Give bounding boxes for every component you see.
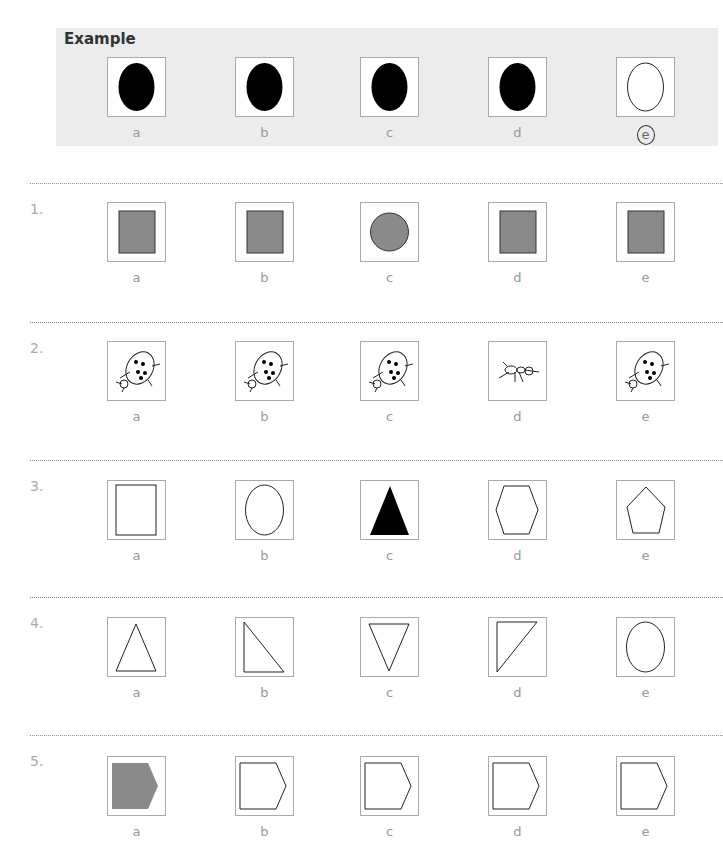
- black-oval-icon: [108, 58, 165, 116]
- q2-option-a-box[interactable]: [107, 341, 166, 401]
- q1-option-e-box[interactable]: [616, 202, 675, 262]
- q1-option-d-box[interactable]: [488, 202, 547, 262]
- arrow-pentagon-outline-icon: [236, 757, 293, 815]
- q5-option-a-label[interactable]: a: [107, 824, 166, 839]
- example-option-e-label[interactable]: e: [616, 125, 675, 145]
- q4-option-d-box[interactable]: [488, 617, 547, 677]
- q4-option-a-label[interactable]: a: [107, 685, 166, 700]
- grey-circle-icon: [361, 203, 418, 261]
- question-number: 3.: [30, 478, 43, 494]
- q4-option-b-label[interactable]: b: [235, 685, 294, 700]
- arrow-pentagon-outline-icon: [617, 757, 674, 815]
- example-option-c-box[interactable]: [360, 57, 419, 117]
- divider: [30, 735, 723, 736]
- q2-option-d-label[interactable]: d: [488, 409, 547, 424]
- q2-option-a-label[interactable]: a: [107, 409, 166, 424]
- rectangle-outline-icon: [108, 481, 165, 539]
- q3-option-c-box[interactable]: [360, 480, 419, 540]
- ladybird-icon: [617, 342, 674, 400]
- example-option-c-label[interactable]: c: [360, 125, 419, 140]
- q1-option-e-label[interactable]: e: [616, 270, 675, 285]
- q1-option-b-label[interactable]: b: [235, 270, 294, 285]
- example-title: Example: [64, 30, 136, 48]
- divider: [30, 322, 723, 323]
- arrow-pentagon-outline-icon: [361, 757, 418, 815]
- black-oval-icon: [361, 58, 418, 116]
- answer-circle: e: [637, 125, 655, 145]
- ladybird-icon: [108, 342, 165, 400]
- example-option-d-box[interactable]: [488, 57, 547, 117]
- divider: [30, 460, 723, 461]
- question-number: 5.: [30, 753, 43, 769]
- q5-option-e-label[interactable]: e: [616, 824, 675, 839]
- oval-outline-icon: [617, 618, 674, 676]
- q5-option-e-box[interactable]: [616, 756, 675, 816]
- q2-option-b-box[interactable]: [235, 341, 294, 401]
- q1-option-b-box[interactable]: [235, 202, 294, 262]
- q4-option-c-box[interactable]: [360, 617, 419, 677]
- example-option-e-box[interactable]: [616, 57, 675, 117]
- q2-option-e-label[interactable]: e: [616, 409, 675, 424]
- q5-option-b-label[interactable]: b: [235, 824, 294, 839]
- q3-option-a-box[interactable]: [107, 480, 166, 540]
- q4-option-e-box[interactable]: [616, 617, 675, 677]
- q3-option-e-box[interactable]: [616, 480, 675, 540]
- example-option-d-label[interactable]: d: [488, 125, 547, 140]
- example-option-a-box[interactable]: [107, 57, 166, 117]
- question-number: 2.: [30, 340, 43, 356]
- q4-option-b-box[interactable]: [235, 617, 294, 677]
- oval-outline-icon: [236, 481, 293, 539]
- q3-option-c-label[interactable]: c: [360, 548, 419, 563]
- grey-arrow-pentagon-icon: [108, 757, 165, 815]
- q5-option-d-box[interactable]: [488, 756, 547, 816]
- question-number: 1.: [30, 201, 43, 217]
- q1-option-c-box[interactable]: [360, 202, 419, 262]
- q1-option-a-box[interactable]: [107, 202, 166, 262]
- q3-option-b-label[interactable]: b: [235, 548, 294, 563]
- q3-option-d-box[interactable]: [488, 480, 547, 540]
- q2-option-c-box[interactable]: [360, 341, 419, 401]
- grey-square-icon: [617, 203, 674, 261]
- q1-option-c-label[interactable]: c: [360, 270, 419, 285]
- ladybird-icon: [236, 342, 293, 400]
- triangle-up-icon: [108, 618, 165, 676]
- arrow-pentagon-outline-icon: [489, 757, 546, 815]
- pentagon-outline-icon: [617, 481, 674, 539]
- q4-option-c-label[interactable]: c: [360, 685, 419, 700]
- q5-option-c-box[interactable]: [360, 756, 419, 816]
- white-oval-icon: [617, 58, 674, 116]
- example-option-b-box[interactable]: [235, 57, 294, 117]
- grey-square-icon: [489, 203, 546, 261]
- right-triangle-icon: [236, 618, 293, 676]
- q2-option-c-label[interactable]: c: [360, 409, 419, 424]
- q5-option-c-label[interactable]: c: [360, 824, 419, 839]
- q3-option-a-label[interactable]: a: [107, 548, 166, 563]
- q2-option-d-box[interactable]: [488, 341, 547, 401]
- divider: [30, 597, 723, 598]
- q5-option-a-box[interactable]: [107, 756, 166, 816]
- example-option-a-label[interactable]: a: [107, 125, 166, 140]
- hexagon-outline-icon: [489, 481, 546, 539]
- q2-option-e-box[interactable]: [616, 341, 675, 401]
- q5-option-b-box[interactable]: [235, 756, 294, 816]
- q1-option-a-label[interactable]: a: [107, 270, 166, 285]
- q1-option-d-label[interactable]: d: [488, 270, 547, 285]
- q4-option-a-box[interactable]: [107, 617, 166, 677]
- triangle-down-icon: [361, 618, 418, 676]
- q3-option-e-label[interactable]: e: [616, 548, 675, 563]
- question-number: 4.: [30, 615, 43, 631]
- q2-option-b-label[interactable]: b: [235, 409, 294, 424]
- divider: [30, 183, 723, 184]
- q5-option-d-label[interactable]: d: [488, 824, 547, 839]
- black-oval-icon: [489, 58, 546, 116]
- black-triangle-icon: [361, 481, 418, 539]
- q4-option-d-label[interactable]: d: [488, 685, 547, 700]
- q4-option-e-label[interactable]: e: [616, 685, 675, 700]
- q3-option-b-box[interactable]: [235, 480, 294, 540]
- grey-square-icon: [108, 203, 165, 261]
- example-option-b-label[interactable]: b: [235, 125, 294, 140]
- right-triangle-flipped-icon: [489, 618, 546, 676]
- grey-square-icon: [236, 203, 293, 261]
- ladybird-icon: [361, 342, 418, 400]
- q3-option-d-label[interactable]: d: [488, 548, 547, 563]
